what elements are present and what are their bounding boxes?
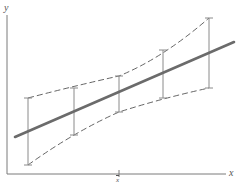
mean-x-symbol: x xyxy=(116,176,119,184)
x-axis-label: x xyxy=(229,168,233,178)
mean-x-label: x xyxy=(116,177,119,184)
y-axis-label: y xyxy=(4,3,8,13)
regression-diagram xyxy=(0,0,241,184)
